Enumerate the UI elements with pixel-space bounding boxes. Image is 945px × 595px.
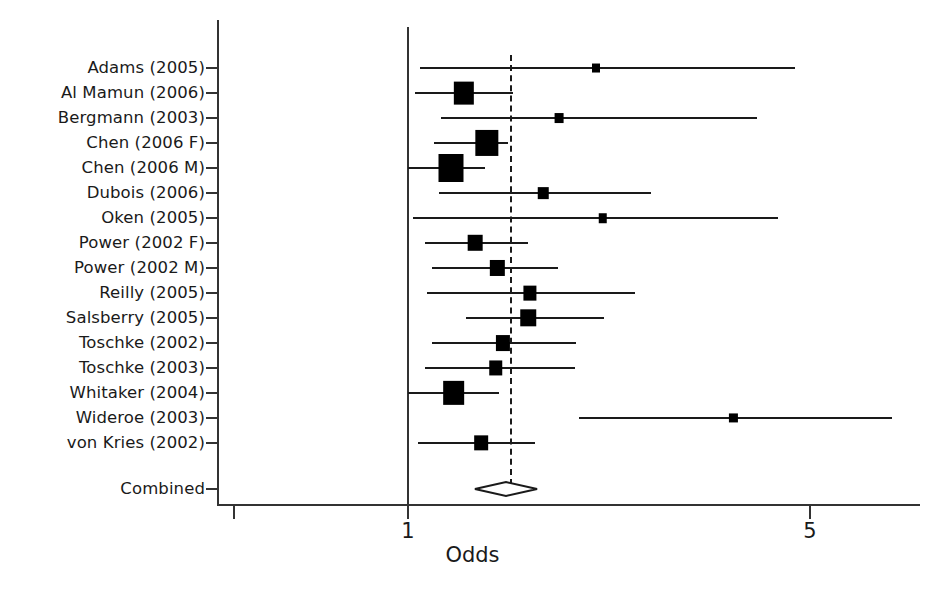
effect-estimate-marker xyxy=(489,360,503,375)
study-label: Oken (2005) xyxy=(101,210,205,227)
effect-estimate-marker xyxy=(454,82,474,105)
study-label: Chen (2006 M) xyxy=(82,160,205,177)
combined-diamond-icon xyxy=(473,479,539,499)
effect-estimate-marker xyxy=(495,335,509,351)
study-label: Power (2002 M) xyxy=(74,260,205,277)
x-axis-tick xyxy=(809,506,811,519)
confidence-interval-line xyxy=(420,67,794,69)
y-axis-line xyxy=(217,20,219,506)
effect-estimate-marker xyxy=(538,187,549,199)
study-label: Dubois (2006) xyxy=(87,185,205,202)
effect-estimate-marker xyxy=(490,260,504,276)
pooled-effect-dashed-line xyxy=(510,55,512,485)
effect-estimate-marker xyxy=(729,413,737,422)
x-axis-tick xyxy=(233,506,235,519)
combined-label: Combined xyxy=(120,481,205,498)
study-label: Bergmann (2003) xyxy=(58,110,205,127)
effect-estimate-marker xyxy=(555,113,564,123)
study-label: Toschke (2002) xyxy=(79,335,205,352)
x-axis-line xyxy=(217,504,920,506)
study-label: Wideroe (2003) xyxy=(76,410,205,427)
study-label: Salsberry (2005) xyxy=(66,310,205,327)
study-label-column: Adams (2005)Al Mamun (2006)Bergmann (200… xyxy=(0,0,205,595)
study-label: Power (2002 F) xyxy=(79,235,205,252)
effect-estimate-marker xyxy=(598,213,607,223)
null-effect-line xyxy=(407,27,409,505)
confidence-interval-line xyxy=(413,217,778,219)
study-label: Toschke (2003) xyxy=(79,360,205,377)
effect-estimate-marker xyxy=(592,64,600,73)
effect-estimate-marker xyxy=(474,435,488,450)
study-label: Al Mamun (2006) xyxy=(61,85,205,102)
study-label: Adams (2005) xyxy=(87,60,205,77)
study-label: Whitaker (2004) xyxy=(70,385,205,402)
study-label: von Kries (2002) xyxy=(67,435,205,452)
effect-estimate-marker xyxy=(439,154,464,182)
effect-estimate-marker xyxy=(523,286,536,301)
effect-estimate-marker xyxy=(468,235,483,251)
study-label: Reilly (2005) xyxy=(99,285,205,302)
effect-estimate-marker xyxy=(475,130,498,156)
effect-estimate-marker xyxy=(521,309,537,326)
x-axis-tick-label: 5 xyxy=(803,521,816,542)
x-axis-title: Odds xyxy=(0,545,945,566)
x-axis-tick-label: 1 xyxy=(401,521,414,542)
effect-estimate-marker xyxy=(443,381,465,405)
confidence-interval-line xyxy=(441,117,758,119)
forest-plot: Adams (2005)Al Mamun (2006)Bergmann (200… xyxy=(0,0,945,595)
study-label: Chen (2006 F) xyxy=(86,135,205,152)
x-axis-tick xyxy=(407,506,409,519)
